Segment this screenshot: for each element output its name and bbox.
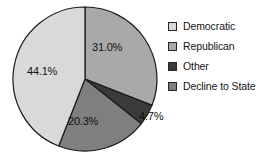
legend-swatch-decline-to-state [168, 82, 177, 91]
legend-swatch-democratic [168, 22, 177, 31]
pie-slices [13, 7, 157, 151]
legend-swatch-other [168, 62, 177, 71]
slice-value-label-other: 4.7% [139, 110, 163, 122]
legend-item-democratic: Democratic [168, 16, 263, 36]
chart-legend: Democratic Republican Other Decline to S… [168, 16, 263, 96]
legend-swatch-republican [168, 42, 177, 51]
pie-svg [6, 2, 162, 154]
legend-label-democratic: Democratic [183, 20, 235, 32]
legend-item-decline-to-state: Decline to State [168, 76, 263, 96]
slice-value-label-republican: 31.0% [92, 41, 122, 53]
legend-label-decline-to-state: Decline to State [183, 80, 256, 92]
pie-chart-figure: 31.0% 4.7% 20.3% 44.1% Democratic Republ… [0, 0, 263, 155]
legend-item-republican: Republican [168, 36, 263, 56]
pie-chart-plot-area: 31.0% 4.7% 20.3% 44.1% [6, 2, 162, 154]
legend-label-republican: Republican [183, 40, 235, 52]
slice-value-label-democratic: 44.1% [27, 65, 57, 77]
slice-value-label-decline-to-state: 20.3% [68, 115, 98, 127]
legend-item-other: Other [168, 56, 263, 76]
legend-label-other: Other [183, 60, 209, 72]
